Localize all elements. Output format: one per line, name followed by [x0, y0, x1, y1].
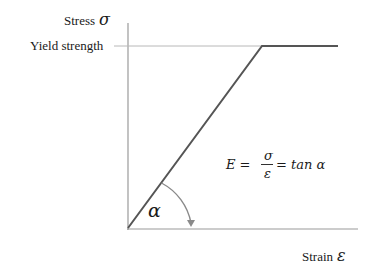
formula-numerator: σ [264, 148, 274, 163]
arrow-head-icon [187, 220, 195, 227]
stress-strain-diagram: Stressσ Yield strength α E = σ ε = tan α… [0, 0, 379, 274]
y-axis-label: Stressσ [64, 10, 111, 29]
formula-rhs: = tan α [276, 157, 326, 172]
formula-denominator: ε [264, 166, 271, 181]
formula-lhs: E = [225, 157, 251, 172]
angle-arc [162, 183, 192, 223]
yield-strength-label: Yield strength [30, 38, 104, 53]
modulus-formula: E = σ ε = tan α [225, 148, 326, 181]
angle-alpha-label: α [148, 199, 161, 221]
x-axis-label: Strainε [302, 246, 346, 265]
